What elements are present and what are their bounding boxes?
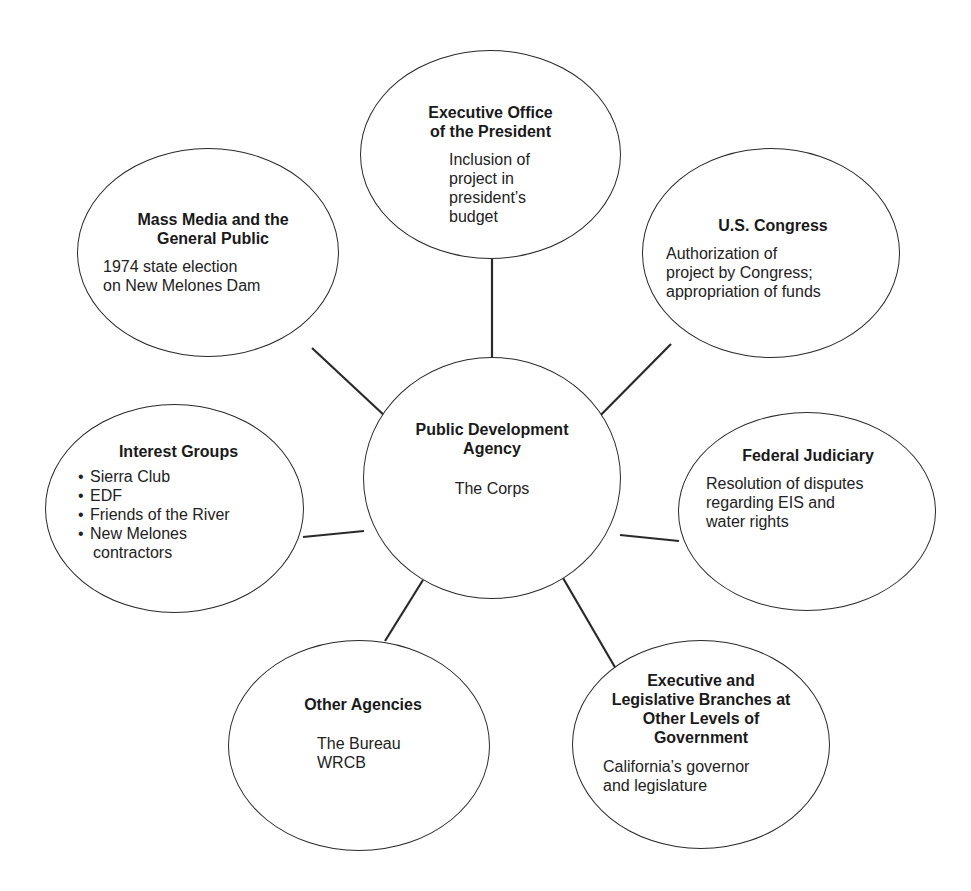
list-item: •Friends of the River (78, 505, 303, 524)
node-description: California’s governor and legislature (573, 757, 829, 795)
bullet-icon: • (78, 524, 90, 543)
item-label: contractors (93, 544, 172, 561)
item-label: New Melones (90, 525, 187, 542)
bullet-icon: • (78, 486, 90, 505)
list-item-continuation: contractors (78, 543, 303, 562)
node-description: 1974 state election on New Melones Dam (78, 257, 338, 295)
bullet-icon: • (78, 505, 90, 524)
desc-line: project in (449, 169, 620, 188)
node-title: Mass Media and the General Public (78, 210, 338, 248)
desc-line: appropriation of funds (666, 282, 899, 301)
list-item: •New Melones (78, 524, 303, 543)
bullet-icon: • (78, 467, 90, 486)
center-title: Public Development Agency (364, 420, 620, 458)
node-title: U.S. Congress (643, 216, 899, 235)
node-other-agencies: Other Agencies The Bureau WRCB (228, 640, 490, 851)
link-center-interest-groups (303, 531, 364, 537)
title-line: Government (573, 728, 829, 747)
node-title: Executive and Legislative Branches at Ot… (573, 671, 829, 747)
node-description: The Bureau WRCB (229, 734, 489, 772)
node-other-levels-government: Executive and Legislative Branches at Ot… (572, 640, 830, 849)
title-line: Mass Media and the (88, 210, 338, 229)
title-line: U.S. Congress (647, 216, 899, 235)
title-line: Legislative Branches at (573, 690, 829, 709)
desc-line: Inclusion of (449, 150, 620, 169)
desc-line: budget (449, 207, 620, 226)
link-center-federal-judiciary (620, 535, 679, 541)
title-line: Other Agencies (237, 695, 489, 714)
list-item: •Sierra Club (78, 467, 303, 486)
link-center-other-agencies (385, 580, 423, 641)
desc-line: president’s (449, 188, 620, 207)
item-label: EDF (90, 487, 122, 504)
node-title: Other Agencies (229, 695, 489, 714)
interest-group-list: •Sierra Club •EDF •Friends of the River … (46, 467, 303, 562)
link-center-other-levels-government (563, 578, 616, 669)
title-line: Public Development (364, 420, 620, 439)
title-line: of the President (361, 122, 620, 141)
desc-line: Authorization of (666, 244, 899, 263)
node-executive-office: Executive Office of the President Inclus… (360, 50, 621, 259)
title-line: Agency (364, 439, 620, 458)
desc-line: 1974 state election (103, 257, 338, 276)
title-line: Executive and (573, 671, 829, 690)
desc-line: regarding EIS and (706, 493, 935, 512)
title-line: Other Levels of (573, 709, 829, 728)
node-description: Authorization of project by Congress; ap… (643, 244, 899, 301)
desc-line: California’s governor (603, 757, 829, 776)
desc-line: on New Melones Dam (103, 276, 338, 295)
list-item: •EDF (78, 486, 303, 505)
node-description: Inclusion of project in president’s budg… (361, 150, 620, 226)
title-line: Interest Groups (54, 442, 303, 461)
node-description: Resolution of disputes regarding EIS and… (679, 474, 935, 531)
title-line: General Public (88, 229, 338, 248)
title-line: Executive Office (361, 103, 620, 122)
node-title: Executive Office of the President (361, 103, 620, 141)
desc-line: Resolution of disputes (706, 474, 935, 493)
item-label: Sierra Club (90, 468, 170, 485)
center-subtitle: The Corps (364, 479, 620, 498)
node-federal-judiciary: Federal Judiciary Resolution of disputes… (678, 412, 936, 611)
node-title: Federal Judiciary (679, 446, 935, 465)
node-center-public-development-agency: Public Development Agency The Corps (363, 357, 621, 599)
node-mass-media: Mass Media and the General Public 1974 s… (77, 148, 339, 357)
node-title: Interest Groups (46, 442, 303, 461)
node-interest-groups: Interest Groups •Sierra Club •EDF •Frien… (45, 404, 304, 613)
desc-line: The Bureau (317, 734, 489, 753)
desc-line: project by Congress; (666, 263, 899, 282)
desc-line: water rights (706, 512, 935, 531)
desc-line: and legislature (603, 776, 829, 795)
desc-line: WRCB (317, 753, 489, 772)
title-line: Federal Judiciary (681, 446, 935, 465)
node-us-congress: U.S. Congress Authorization of project b… (642, 148, 900, 358)
item-label: Friends of the River (90, 506, 230, 523)
